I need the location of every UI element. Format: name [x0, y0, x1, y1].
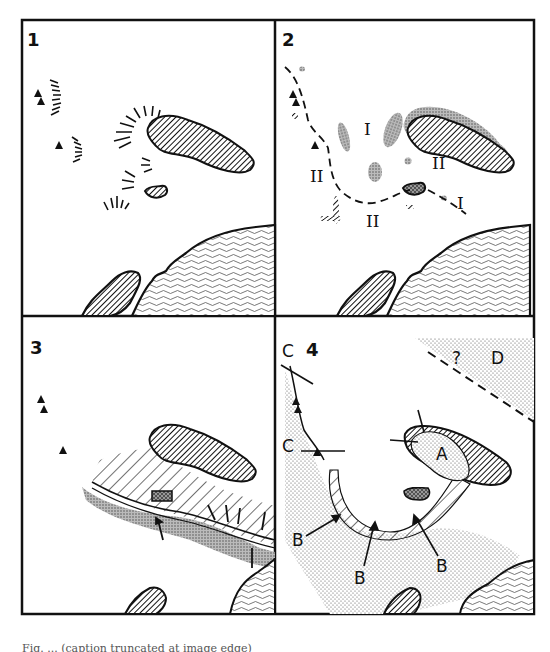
panel-3-label: 3 [30, 337, 43, 358]
geologic-sketch-map-figure: 1 2 [0, 0, 550, 652]
volcano-icon [37, 395, 67, 454]
svg-text:II: II [310, 166, 323, 186]
svg-text:D: D [491, 348, 504, 368]
svg-text:C: C [282, 341, 294, 361]
panel-4-label: 4 [306, 339, 319, 360]
svg-text:A: A [436, 444, 448, 464]
svg-text:C: C [282, 436, 294, 456]
mainland-coast [337, 225, 530, 316]
figure-caption: Fig. ... (caption truncated at image edg… [22, 636, 532, 652]
stippled-region-d [415, 338, 534, 420]
panel-1: 1 [27, 29, 275, 316]
panel-4: 4 A B B B C C D ? ? [281, 338, 534, 614]
svg-text:B: B [292, 530, 304, 550]
svg-text:B: B [436, 556, 448, 576]
svg-text:II: II [366, 211, 379, 231]
svg-text:B: B [354, 568, 366, 588]
svg-text:II: II [432, 153, 445, 173]
stippled-region-b [285, 370, 520, 614]
volcano-icon [289, 90, 319, 149]
volcano-icon [34, 89, 63, 149]
islet [404, 488, 430, 500]
panel-2-label: 2 [282, 29, 295, 50]
svg-text:I: I [457, 193, 464, 213]
uplift-tick-marks [50, 80, 160, 210]
mainland-coast [82, 225, 275, 316]
svg-text:?: ? [452, 348, 461, 368]
svg-text:I: I [364, 119, 371, 139]
islet [145, 186, 167, 198]
panel-2: 2 I II II II I [282, 29, 530, 316]
panel-3: 3 [30, 337, 275, 614]
islet [403, 183, 425, 195]
panel-1-label: 1 [27, 29, 40, 50]
islet [152, 491, 172, 501]
main-island [147, 116, 253, 173]
